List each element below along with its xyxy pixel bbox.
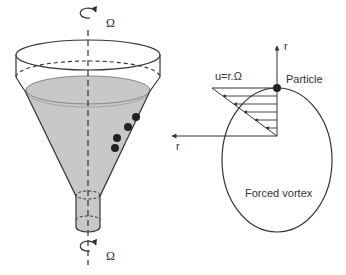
forced-vortex: r r u=r.Ω Particle Forced vortex <box>172 40 332 232</box>
velocity-label: u=r.Ω <box>215 70 242 82</box>
rotation-arrow-bottom: Ω <box>80 241 115 263</box>
rotation-icon <box>80 8 96 18</box>
particle-dot <box>124 123 132 131</box>
vortex-caption: Forced vortex <box>245 187 313 199</box>
funnel <box>16 30 160 265</box>
omega-label-bottom: Ω <box>106 249 115 263</box>
diagram-svg: Ω Ω r r u=r.Ω Particle Forced <box>0 0 346 275</box>
particle-dot <box>132 113 140 121</box>
vortex-particle <box>273 84 281 92</box>
rotation-arrow-top: Ω <box>80 8 115 30</box>
axis-left-label: r <box>176 140 180 152</box>
axis-up-label: r <box>284 40 288 52</box>
diagram-canvas: Ω Ω r r u=r.Ω Particle Forced <box>0 0 346 275</box>
particle-label: Particle <box>286 73 323 85</box>
particle-dot <box>111 144 119 152</box>
particle-dot <box>113 134 121 142</box>
omega-label-top: Ω <box>106 16 115 30</box>
velocity-arrows <box>223 96 277 128</box>
